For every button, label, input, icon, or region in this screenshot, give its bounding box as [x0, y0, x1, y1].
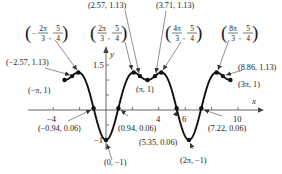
y-axis-arrow-icon: [103, 46, 108, 53]
function-graph: −4 4 6 10 1.5 −1 x y (−π, 1) (−2.57, 1.1…: [0, 0, 282, 174]
svg-text:8π: 8π: [229, 24, 237, 33]
data-point: [199, 106, 203, 110]
data-point: [76, 70, 80, 74]
svg-text:5: 5: [56, 24, 60, 33]
svg-text:4π: 4π: [173, 24, 181, 33]
svg-text:,: ,: [108, 32, 110, 41]
label-2pi-over-3: (2π3,54): [90, 22, 127, 44]
label-neg-0-94: (−0.94, 0.06): [38, 124, 81, 133]
data-point: [153, 74, 157, 78]
data-point: [228, 78, 232, 82]
svg-text:(: (: [25, 22, 31, 44]
svg-text:3: 3: [175, 34, 179, 43]
data-point: [187, 138, 191, 142]
data-point: [104, 138, 108, 142]
data-point: [159, 70, 163, 74]
svg-text:): ): [121, 22, 127, 44]
data-point: [131, 70, 135, 74]
label-5-35: (5.35, 0.06): [139, 138, 177, 147]
x-tick-label-10: 10: [233, 114, 242, 124]
svg-text:(: (: [90, 22, 96, 44]
svg-text:,: ,: [49, 32, 51, 41]
data-point: [145, 78, 149, 82]
label-3pi: (3π, 1): [238, 80, 260, 89]
svg-text:,: ,: [239, 32, 241, 41]
svg-text:2π: 2π: [98, 24, 106, 33]
label-8-86: (8.86, 1.13): [238, 63, 276, 72]
x-tick-label-4: 4: [156, 114, 161, 124]
svg-text:−: −: [32, 29, 36, 38]
svg-text:4: 4: [56, 34, 60, 43]
svg-text:3: 3: [231, 34, 235, 43]
data-point: [62, 78, 66, 82]
x-tick-label-6: 6: [182, 114, 186, 124]
label-4pi-over-3: (4π3,54): [165, 22, 202, 44]
label-neg-2-57: (−2.57, 1.13): [6, 58, 49, 67]
label-neg-pi: (−π, 1): [28, 86, 51, 95]
label-origin-min: (0, −1): [104, 158, 127, 167]
label-neg-2pi-over-3: (−2π3,54): [25, 22, 68, 44]
label-3-71: (3.71, 1.13): [156, 1, 194, 10]
data-point: [138, 74, 142, 78]
x-axis-label: x: [251, 96, 256, 106]
label-2pi-min: (2π, −1): [180, 156, 207, 165]
data-point: [174, 106, 178, 110]
data-point: [70, 74, 74, 78]
svg-text:5: 5: [246, 24, 250, 33]
data-point: [221, 74, 225, 78]
svg-text:(: (: [221, 22, 227, 44]
svg-text:(: (: [165, 22, 171, 44]
y-axis-label: y: [109, 49, 114, 59]
axes: −4 4 6 10 1.5 −1 x y: [28, 46, 264, 150]
y-tick-label-1-5: 1.5: [93, 60, 104, 70]
data-point: [214, 70, 218, 74]
fraction-labels: (−2π3,54)(2π3,54)(4π3,54)(8π3,54): [25, 22, 258, 44]
svg-text:): ): [252, 22, 258, 44]
svg-text:4: 4: [115, 34, 119, 43]
svg-text:4: 4: [190, 34, 194, 43]
label-0-94: (0.94, 0.06): [118, 124, 156, 133]
x-axis-arrow-icon: [258, 107, 264, 112]
svg-text:2π: 2π: [39, 24, 47, 33]
svg-text:3: 3: [100, 34, 104, 43]
data-point: [91, 106, 95, 110]
svg-text:5: 5: [115, 24, 119, 33]
label-pi: (π, 1): [136, 85, 154, 94]
label-2-57: (2.57, 1.13): [88, 1, 126, 10]
label-8pi-over-3: (8π3,54): [221, 22, 258, 44]
data-point: [116, 106, 120, 110]
svg-text:3: 3: [41, 34, 45, 43]
svg-text:): ): [62, 22, 68, 44]
svg-text:): ): [196, 22, 202, 44]
x-tick-label-neg4: −4: [47, 114, 57, 124]
svg-text:,: ,: [183, 32, 185, 41]
label-7-22: (7.22, 0.06): [208, 124, 246, 133]
svg-text:5: 5: [190, 24, 194, 33]
svg-text:4: 4: [246, 34, 250, 43]
